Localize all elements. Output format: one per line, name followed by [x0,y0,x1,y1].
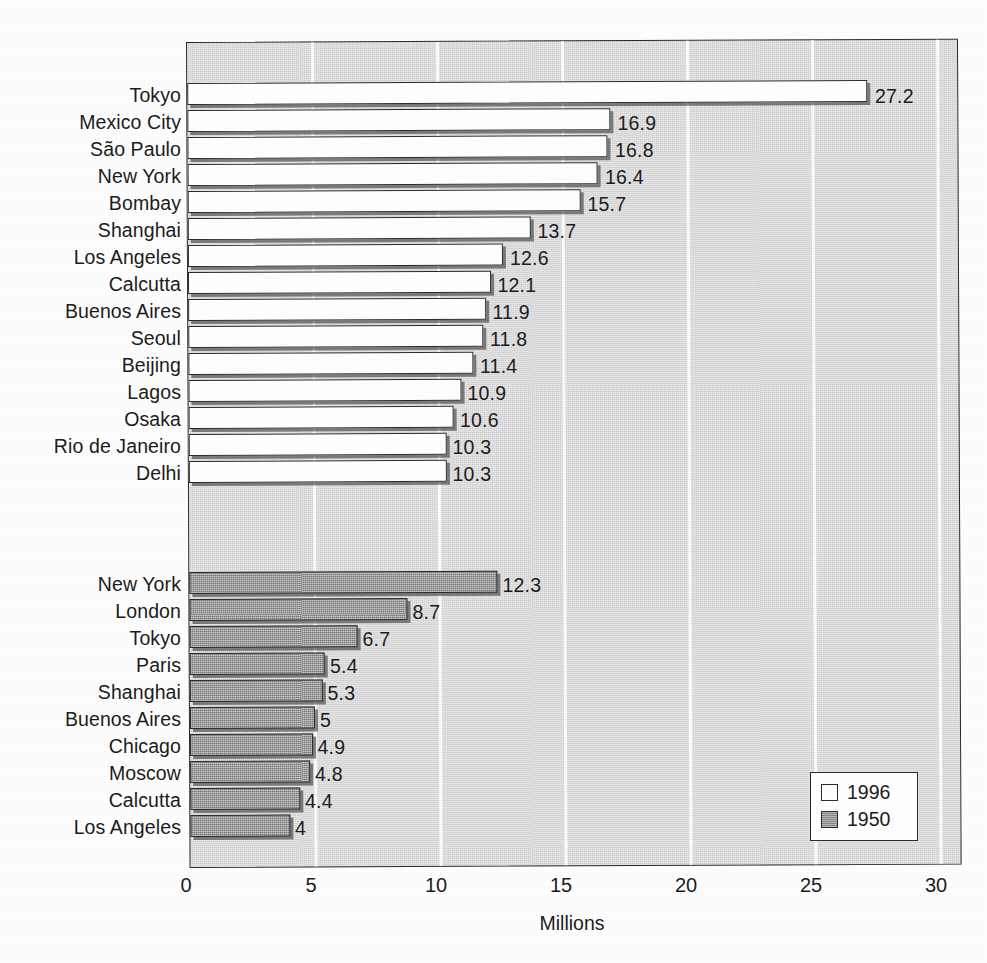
bar[interactable] [187,80,867,105]
plot-area [186,39,962,868]
bar-value-label: 8.7 [413,601,441,624]
bar[interactable] [189,406,454,429]
bar[interactable] [187,108,610,132]
category-labels: TokyoMexico CitySão PauloNew YorkBombayS… [0,0,181,963]
bar-value-label: 16.8 [615,139,654,162]
bar-value-label: 10.6 [460,409,499,432]
bar[interactable] [190,815,290,837]
x-tick-5: 5 [305,874,316,897]
bar[interactable] [190,706,315,729]
chart-legend[interactable]: 1996 1950 [810,772,918,841]
bar-value-label: 27.2 [875,85,914,108]
bar-value-label: 10.3 [453,436,492,459]
bar-value-label: 12.3 [503,574,542,597]
bar-value-label: 4.9 [318,736,346,759]
category-label: Tokyo [130,627,181,650]
legend-entry-1950[interactable]: 1950 [821,806,907,833]
category-label: Los Angeles [74,246,181,269]
bar[interactable] [189,460,447,483]
category-label: Seoul [131,327,181,350]
bar[interactable] [188,379,461,402]
bar[interactable] [188,325,483,348]
legend-label-1996: 1996 [847,781,890,804]
bar[interactable] [190,679,323,702]
category-label: Delhi [136,462,181,485]
x-tick-30: 30 [925,874,947,897]
category-label: Buenos Aires [65,708,181,731]
bar[interactable] [188,352,473,375]
bar[interactable] [188,298,486,321]
category-label: Tokyo [130,84,181,107]
category-label: Calcutta [109,273,181,296]
bar-value-label: 13.7 [538,220,577,243]
x-tick-25: 25 [800,874,822,897]
bar-value-label: 12.1 [498,274,537,297]
bar-value-label: 16.9 [618,112,657,135]
bar-value-label: 11.4 [480,355,517,378]
category-label: Shanghai [98,681,181,704]
bar-value-label: 5.3 [328,682,356,705]
category-label: São Paulo [90,138,181,161]
bar[interactable] [188,271,491,294]
bar[interactable] [188,244,503,267]
bar[interactable] [187,135,607,159]
x-tick-0: 0 [180,874,191,897]
gridline-30 [936,40,942,864]
white-square-swatch-icon [821,784,838,801]
bar-group-1996 [187,40,957,43]
bar[interactable] [188,216,531,239]
category-label: Chicago [109,735,181,758]
bar[interactable] [189,571,497,594]
bar[interactable] [188,189,581,213]
category-label: Moscow [109,762,181,785]
bar-value-label: 11.9 [493,301,530,324]
bar-value-label: 15.7 [588,193,627,216]
legend-entry-1996[interactable]: 1996 [821,779,907,806]
bar[interactable] [189,433,447,456]
bar[interactable] [189,598,407,621]
bar-value-label: 11.8 [490,328,527,351]
category-label: Rio de Janeiro [54,435,181,458]
category-label: New York [98,165,181,188]
bar-value-label: 4.8 [315,763,343,786]
category-label: Paris [136,654,181,677]
x-tick-10: 10 [425,874,447,897]
category-label: Mexico City [79,111,181,134]
bar[interactable] [190,760,310,783]
category-label: London [115,600,181,623]
population-bar-chart: TokyoMexico CitySão PauloNew YorkBombayS… [0,0,987,963]
category-label: Beijing [122,354,181,377]
bar[interactable] [188,162,598,186]
bar-value-label: 5 [320,709,331,732]
x-tick-20: 20 [675,874,697,897]
category-label: Lagos [127,381,181,404]
bar[interactable] [190,625,358,648]
bar-value-label: 10.3 [453,463,492,486]
gray-square-swatch-icon [821,811,838,828]
gridline-25 [811,40,817,864]
x-axis-title: Millions [186,912,958,935]
x-tick-15: 15 [550,874,572,897]
bar-value-label: 4 [295,817,306,840]
legend-label-1950: 1950 [847,808,890,831]
category-label: Los Angeles [74,816,181,839]
category-label: Calcutta [109,789,181,812]
category-label: Buenos Aires [65,300,181,323]
bar[interactable] [190,733,313,756]
gridlines [187,40,957,43]
bar-value-label: 5.4 [330,655,358,678]
bar-value-label: 16.4 [605,166,644,189]
bar-group-1950 [187,40,957,43]
gridline-20 [686,41,692,865]
bar-value-label: 12.6 [510,247,549,270]
bar-value-label: 4.4 [305,790,333,813]
bar-value-label: 6.7 [363,628,391,651]
bar[interactable] [190,788,300,810]
bar[interactable] [190,652,325,675]
bar-value-label: 10.9 [468,382,507,405]
category-label: Osaka [124,408,181,431]
category-label: New York [98,573,181,596]
category-label: Shanghai [98,219,181,242]
category-label: Bombay [109,192,181,215]
